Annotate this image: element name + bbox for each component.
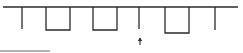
notch — [93, 7, 117, 30]
notch — [165, 7, 189, 33]
up-arrow-icon — [138, 38, 142, 46]
notch — [46, 7, 70, 30]
comb-diagram — [0, 0, 243, 53]
notches — [46, 7, 189, 33]
ticks — [22, 7, 215, 30]
arrow-head — [138, 38, 142, 42]
